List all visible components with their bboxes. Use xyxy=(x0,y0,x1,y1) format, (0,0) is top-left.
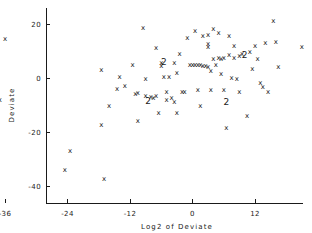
data-point-overplot: 2 xyxy=(242,50,248,60)
data-point-marker: x xyxy=(232,42,236,50)
data-point-marker: x xyxy=(123,82,127,90)
data-point-marker: x xyxy=(63,166,67,174)
data-point-marker: x xyxy=(211,25,215,33)
data-point-marker: x xyxy=(198,102,202,110)
data-point-marker: x xyxy=(177,50,181,58)
data-point-marker: x xyxy=(107,102,111,110)
data-point-marker: x xyxy=(271,17,275,25)
data-point-marker: x xyxy=(253,42,257,50)
data-point-marker: x xyxy=(3,35,7,43)
data-point-marker: x xyxy=(196,86,200,94)
data-point-marker: x xyxy=(300,43,304,51)
data-point-marker: x xyxy=(175,109,179,117)
x-axis-title: Log2 of Deviate xyxy=(141,223,213,231)
data-point-marker: x xyxy=(99,121,103,129)
data-point-marker: x xyxy=(229,74,233,82)
data-point-marker: x xyxy=(68,147,72,155)
data-point-marker: x xyxy=(261,83,265,91)
x-axis-tick-label: 12 xyxy=(250,210,260,218)
y-axis-tick-label: 20 xyxy=(31,21,41,29)
y-axis-tick-label: -20 xyxy=(28,129,41,137)
data-point-marker: x xyxy=(118,73,122,81)
data-point-overplot: 2 xyxy=(223,97,229,107)
data-point-marker: x xyxy=(224,124,228,132)
data-point-marker: x xyxy=(209,67,213,75)
data-point-marker: x xyxy=(154,44,158,52)
y-axis-title: Deviate xyxy=(8,88,16,123)
data-point-marker: x xyxy=(136,89,140,97)
x-axis-tick-label: -24 xyxy=(61,210,74,218)
data-point-marker: x xyxy=(167,73,171,81)
data-point-marker: x xyxy=(263,39,267,47)
data-point-marker: x xyxy=(131,61,135,69)
data-point-marker: x xyxy=(172,98,176,106)
data-point-marker: x xyxy=(136,117,140,125)
data-point-marker: x xyxy=(227,51,231,59)
data-point-overplot: 2 xyxy=(161,57,167,67)
data-point-marker: x xyxy=(164,96,168,104)
data-point-marker: x xyxy=(99,66,103,74)
chart-canvas: xxxxxxxxxxxxxxxxxx2xxxxxxx2xxxxxxxxxxxxx… xyxy=(0,0,312,233)
data-point-marker: x xyxy=(266,88,270,96)
data-point-marker: x xyxy=(227,32,231,40)
data-point-marker: x xyxy=(183,88,187,96)
data-point-marker: x xyxy=(245,112,249,120)
data-point-marker: x xyxy=(164,88,168,96)
data-point-marker: x xyxy=(162,73,166,81)
data-point-marker: x xyxy=(216,29,220,37)
data-point-marker: x xyxy=(237,88,241,96)
scatter-plot-figure: xxxxxxxxxxxxxxxxxx2xxxxxxx2xxxxxxxxxxxxx… xyxy=(0,0,312,233)
y-axis-tick-label: 0 xyxy=(36,75,41,83)
data-point-marker: x xyxy=(175,69,179,77)
data-point-marker: x xyxy=(185,34,189,42)
data-point-marker: x xyxy=(209,86,213,94)
data-point-marker: x xyxy=(102,175,106,183)
data-point-marker: x xyxy=(256,55,260,63)
data-point-marker: x xyxy=(206,43,210,51)
data-point-marker: x xyxy=(141,24,145,32)
data-point-marker: x xyxy=(219,70,223,78)
x-axis-tick-label: -36 xyxy=(0,210,11,218)
data-point-marker: x xyxy=(157,109,161,117)
data-point-marker: x xyxy=(248,48,252,56)
data-point-marker: x xyxy=(0,96,2,104)
data-point-marker: x xyxy=(154,92,158,100)
data-point-marker: x xyxy=(232,54,236,62)
data-point-marker: x xyxy=(222,86,226,94)
data-point-marker: x xyxy=(172,59,176,67)
data-point-marker: x xyxy=(206,31,210,39)
data-point-marker: x xyxy=(222,54,226,62)
x-axis-tick-label: 0 xyxy=(190,210,195,218)
data-point-marker: x xyxy=(144,75,148,83)
data-point-marker: x xyxy=(115,85,119,93)
x-axis-tick-label: -12 xyxy=(124,210,137,218)
data-point-marker: x xyxy=(274,38,278,46)
data-point-marker: x xyxy=(250,65,254,73)
data-point-marker: x xyxy=(193,27,197,35)
data-point-marker: x xyxy=(276,63,280,71)
data-point-marker: x xyxy=(235,75,239,83)
data-point-marker: x xyxy=(201,32,205,40)
y-axis-tick-label: -40 xyxy=(28,183,41,191)
